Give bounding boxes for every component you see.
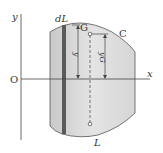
diagram-canvas: O x y dL G C L y yG bbox=[0, 0, 163, 153]
strip-dl bbox=[62, 25, 66, 134]
y-dimension-label: y bbox=[72, 51, 81, 57]
x-axis-label: x bbox=[147, 68, 153, 79]
region-label: L bbox=[93, 137, 101, 148]
y-axis-label: y bbox=[11, 11, 18, 22]
origin-label: O bbox=[10, 74, 18, 85]
centroid-point-g bbox=[88, 32, 92, 36]
centroid-label: G bbox=[80, 22, 88, 33]
yg-dimension-label: yG bbox=[98, 51, 107, 64]
mirror-point bbox=[88, 122, 92, 126]
curve-label: C bbox=[119, 28, 127, 39]
centroid-diagram: O x y dL G C L y yG bbox=[0, 0, 163, 153]
strip-label: dL bbox=[55, 13, 68, 24]
